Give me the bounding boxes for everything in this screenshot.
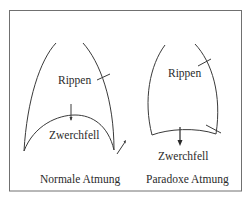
left-rib-label: Rippen bbox=[58, 74, 91, 87]
breathing-diagram: Rippen Zwerchfell Normale Atmung Rippen … bbox=[0, 0, 248, 199]
right-rib-label: Rippen bbox=[168, 67, 201, 80]
left-diaphragm-label: Zwerchfell bbox=[49, 129, 99, 141]
left-rib-expansion-arrow-shaft bbox=[117, 142, 125, 154]
diagram-frame bbox=[10, 11, 242, 192]
paradoxical-breathing-panel: Rippen Zwerchfell Paradoxe Atmung bbox=[146, 44, 229, 186]
right-diaphragm-curve bbox=[152, 130, 216, 135]
right-diaphragm-label: Zwerchfell bbox=[158, 150, 208, 162]
right-ribcage-left-arc bbox=[148, 45, 165, 135]
left-panel-caption: Normale Atmung bbox=[40, 173, 120, 186]
left-diaphragm-arrow-head bbox=[70, 117, 73, 121]
right-ribcage-right-arc bbox=[195, 44, 218, 134]
normal-breathing-panel: Rippen Zwerchfell Normale Atmung bbox=[24, 43, 126, 186]
right-diaphragm-arrow-head bbox=[178, 140, 183, 146]
right-panel-caption: Paradoxe Atmung bbox=[146, 173, 229, 186]
